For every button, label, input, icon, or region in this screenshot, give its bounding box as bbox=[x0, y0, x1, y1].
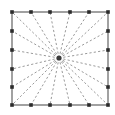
boundary-marker-left-4 bbox=[10, 67, 14, 71]
boundary-marker-right-5 bbox=[106, 85, 110, 89]
boundary-marker-top-6 bbox=[106, 10, 110, 14]
center-hub-marker bbox=[56, 55, 61, 60]
boundary-marker-right-6 bbox=[106, 103, 110, 107]
boundary-marker-bottom-3 bbox=[48, 103, 52, 107]
boundary-marker-bottom-2 bbox=[29, 103, 33, 107]
radial-diagram-svg bbox=[0, 0, 115, 115]
boundary-marker-left-3 bbox=[10, 48, 14, 52]
boundary-marker-right-3 bbox=[106, 48, 110, 52]
boundary-marker-bottom-1 bbox=[10, 103, 14, 107]
boundary-marker-top-3 bbox=[48, 10, 52, 14]
boundary-marker-left-5 bbox=[10, 85, 14, 89]
boundary-marker-right-2 bbox=[106, 29, 110, 33]
figure-container bbox=[0, 0, 115, 115]
boundary-marker-bottom-5 bbox=[87, 103, 91, 107]
boundary-marker-top-1 bbox=[10, 10, 14, 14]
boundary-marker-top-4 bbox=[68, 10, 72, 14]
boundary-marker-left-2 bbox=[10, 29, 14, 33]
boundary-marker-right-4 bbox=[106, 67, 110, 71]
boundary-marker-top-5 bbox=[87, 10, 91, 14]
boundary-marker-bottom-4 bbox=[68, 103, 72, 107]
hub-layer bbox=[56, 55, 61, 60]
boundary-marker-top-2 bbox=[29, 10, 33, 14]
